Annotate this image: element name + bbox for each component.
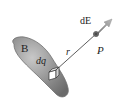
field-label: dE: [80, 16, 91, 26]
field-arrow: [97, 19, 112, 34]
point-label: P: [97, 45, 104, 56]
electric-field-diagram: B dq r P dE: [0, 0, 122, 110]
distance-line: [56, 34, 96, 70]
distance-label: r: [66, 47, 70, 57]
charge-element-label: dq: [36, 56, 46, 66]
body-label: B: [21, 43, 28, 54]
